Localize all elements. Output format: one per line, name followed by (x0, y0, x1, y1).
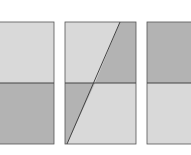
left-panel (0, 22, 54, 144)
right-panel-top-region (147, 22, 191, 83)
right-panel (147, 22, 191, 144)
left-panel-bottom-region (0, 83, 54, 144)
middle-panel (65, 22, 136, 144)
diagram-canvas (0, 0, 191, 155)
left-panel-top-region (0, 22, 54, 83)
right-panel-bottom-region (147, 83, 191, 144)
